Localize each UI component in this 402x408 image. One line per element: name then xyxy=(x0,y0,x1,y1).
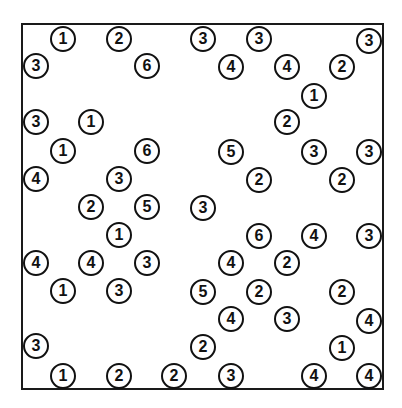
island-node[interactable]: 4 xyxy=(218,54,244,80)
island-node[interactable]: 4 xyxy=(78,250,104,276)
island-node[interactable]: 3 xyxy=(23,109,49,135)
island-node[interactable]: 5 xyxy=(134,194,160,220)
island-node[interactable]: 6 xyxy=(246,223,272,249)
island-node[interactable]: 2 xyxy=(106,26,132,52)
island-node[interactable]: 1 xyxy=(50,138,76,164)
island-node[interactable]: 4 xyxy=(23,166,49,192)
island-node[interactable]: 2 xyxy=(78,194,104,220)
island-node[interactable]: 3 xyxy=(356,28,382,54)
island-node[interactable]: 3 xyxy=(190,195,216,221)
island-node[interactable]: 1 xyxy=(50,363,76,389)
island-node[interactable]: 3 xyxy=(134,250,160,276)
island-node[interactable]: 4 xyxy=(23,250,49,276)
island-node[interactable]: 3 xyxy=(106,278,132,304)
island-node[interactable]: 2 xyxy=(106,363,132,389)
island-node[interactable]: 3 xyxy=(190,26,216,52)
island-node[interactable]: 1 xyxy=(50,26,76,52)
island-node[interactable]: 3 xyxy=(356,223,382,249)
island-node[interactable]: 4 xyxy=(274,54,300,80)
island-node[interactable]: 4 xyxy=(301,223,327,249)
island-node[interactable]: 2 xyxy=(274,109,300,135)
island-node[interactable]: 3 xyxy=(301,139,327,165)
island-node[interactable]: 1 xyxy=(329,335,355,361)
island-node[interactable]: 5 xyxy=(218,139,244,165)
island-node[interactable]: 2 xyxy=(190,334,216,360)
island-node[interactable]: 1 xyxy=(78,109,104,135)
island-node[interactable]: 3 xyxy=(23,53,49,79)
island-node[interactable]: 4 xyxy=(356,308,382,334)
island-node[interactable]: 2 xyxy=(246,279,272,305)
island-node[interactable]: 2 xyxy=(329,279,355,305)
island-node[interactable]: 6 xyxy=(134,138,160,164)
island-node[interactable]: 5 xyxy=(190,279,216,305)
island-node[interactable]: 3 xyxy=(356,139,382,165)
island-node[interactable]: 1 xyxy=(106,222,132,248)
island-node[interactable]: 3 xyxy=(246,26,272,52)
island-node[interactable]: 6 xyxy=(134,53,160,79)
island-node[interactable]: 2 xyxy=(329,54,355,80)
island-node[interactable]: 1 xyxy=(301,83,327,109)
island-node[interactable]: 3 xyxy=(23,333,49,359)
island-node[interactable]: 2 xyxy=(274,250,300,276)
island-node[interactable]: 2 xyxy=(329,167,355,193)
island-node[interactable]: 4 xyxy=(218,250,244,276)
island-node[interactable]: 2 xyxy=(161,363,187,389)
island-node[interactable]: 2 xyxy=(246,167,272,193)
island-node[interactable]: 3 xyxy=(274,306,300,332)
island-node[interactable]: 4 xyxy=(356,363,382,389)
island-node[interactable]: 3 xyxy=(218,363,244,389)
island-node[interactable]: 3 xyxy=(106,166,132,192)
island-node[interactable]: 4 xyxy=(218,306,244,332)
island-node[interactable]: 1 xyxy=(50,278,76,304)
island-node[interactable]: 4 xyxy=(301,363,327,389)
